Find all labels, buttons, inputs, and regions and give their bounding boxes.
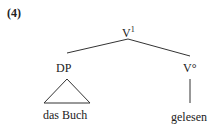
node-root: V1 bbox=[122, 24, 135, 39]
node-dp: DP bbox=[56, 62, 71, 74]
node-v0: V° bbox=[183, 62, 196, 74]
branch-root-left bbox=[67, 39, 128, 53]
branch-root-right bbox=[128, 39, 190, 56]
node-root-label: V bbox=[122, 26, 131, 40]
terminal-gelesen: gelesen bbox=[171, 111, 207, 123]
node-root-superscript: 1 bbox=[131, 25, 135, 34]
triangle-dp bbox=[44, 79, 90, 103]
terminal-das-buch: das Buch bbox=[43, 109, 87, 121]
